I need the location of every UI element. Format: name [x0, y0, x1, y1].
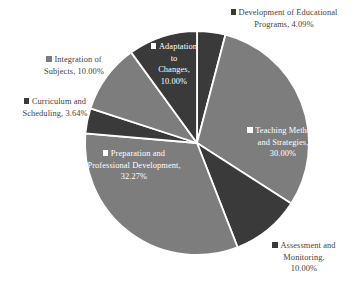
- slice-label-line-1: Teaching Methods: [255, 126, 319, 135]
- legend-swatch-assessment-and-monitoring: [272, 242, 278, 248]
- slice-label-line-1: Adaptation: [159, 42, 197, 51]
- slice-label-integration-of-subjects: Integration of Subjects, 10.00%: [22, 54, 126, 77]
- slice-label-line-1: Curriculum and: [32, 97, 86, 106]
- legend-swatch-development-of-educational-programs: [231, 9, 237, 15]
- legend-swatch-integration-of-subjects: [46, 56, 52, 62]
- legend-swatch-teaching-methods-and-strategies: [247, 127, 253, 133]
- slice-label-line-2: Programs, 4.09%: [254, 20, 313, 29]
- slice-label-adaptation-to-changes: Adaptation to Changes, 10.00%: [140, 41, 208, 87]
- legend-swatch-preparation-and-professional-development: [103, 150, 109, 156]
- slice-label-line-1: Assessment and: [280, 241, 335, 250]
- slice-label-development-of-educational-programs: Development of Educational Programs, 4.0…: [213, 7, 355, 30]
- legend-swatch-curriculum-and-scheduling: [24, 98, 30, 104]
- slice-label-line-1: Integration of: [54, 55, 101, 64]
- slice-label-teaching-methods-and-strategies: Teaching Methods and Strategies, 30.00%: [222, 125, 344, 160]
- legend-swatch-adaptation-to-changes: [151, 43, 157, 49]
- slice-label-line-3: 32.27%: [121, 172, 147, 181]
- slice-label-line-2: Professional Development,: [87, 161, 180, 170]
- slice-label-line-4: 10.00%: [161, 77, 187, 86]
- slice-label-assessment-and-monitoring: Assessment and Monitoring, 10.00%: [255, 240, 353, 275]
- slice-label-line-1: Development of Educational: [239, 8, 338, 17]
- slice-label-line-2: Subjects, 10.00%: [44, 67, 104, 76]
- slice-label-line-2: Scheduling, 3.64%: [22, 109, 87, 118]
- slice-label-line-3: 30.00%: [270, 149, 296, 158]
- slice-label-preparation-and-professional-development: Preparation and Professional Development…: [48, 148, 220, 183]
- slice-label-line-3: Changes,: [158, 65, 190, 74]
- slice-label-line-2: Monitoring,: [283, 253, 324, 262]
- slice-label-line-2: and Strategies,: [258, 138, 309, 147]
- slice-label-line-3: 10.00%: [291, 264, 317, 273]
- slice-label-line-1: Preparation and: [111, 149, 165, 158]
- pie-chart: Development of Educational Programs, 4.0…: [0, 0, 355, 289]
- slice-label-curriculum-and-scheduling: Curriculum and Scheduling, 3.64%: [2, 96, 108, 119]
- slice-label-line-2: to: [171, 54, 178, 63]
